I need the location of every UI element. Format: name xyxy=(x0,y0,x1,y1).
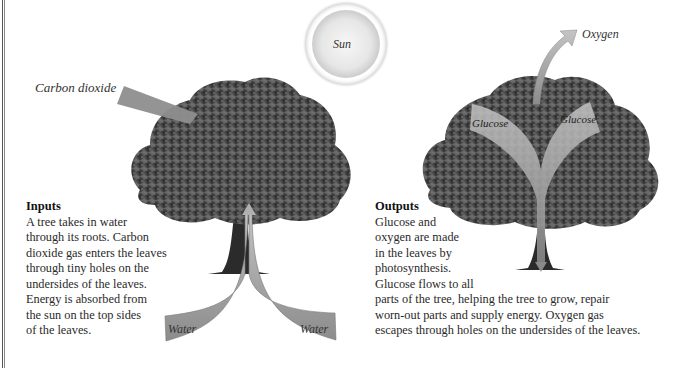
inputs-line: through tiny holes on the xyxy=(26,261,167,277)
inputs-line: of the leaves. xyxy=(26,323,167,339)
inputs-line: dioxide gas enters the leaves xyxy=(26,246,167,262)
outputs-line: parts of the tree, helping the tree to g… xyxy=(375,292,640,308)
outputs-line: Glucose flows to all xyxy=(375,277,640,293)
glucose-left-label: Glucose xyxy=(472,117,508,129)
water-arrows-icon xyxy=(165,203,336,341)
outputs-line: photosynthesis. xyxy=(375,261,640,277)
inputs-text-block: Inputs A tree takes in water through its… xyxy=(26,199,167,339)
glucose-right-label: Glucose xyxy=(560,113,596,125)
oxygen-label: Oxygen xyxy=(582,27,619,42)
outputs-line: escapes through holes on the undersides … xyxy=(375,323,640,339)
outputs-line: worn-out parts and supply energy. Oxygen… xyxy=(375,308,640,324)
outputs-heading: Outputs xyxy=(375,199,640,215)
water-left-label: Water xyxy=(168,322,196,337)
inputs-heading: Inputs xyxy=(26,199,167,215)
water-right-label: Water xyxy=(300,322,328,337)
outputs-line: oxygen are made xyxy=(375,230,640,246)
sun-label: Sun xyxy=(333,37,351,52)
inputs-line: undersides of the leaves. xyxy=(26,277,167,293)
outputs-text-block: Outputs Glucose and oxygen are made in t… xyxy=(375,199,640,339)
carbon-dioxide-label: Carbon dioxide xyxy=(35,80,116,96)
inputs-line: through its roots. Carbon xyxy=(26,230,167,246)
outputs-line: Glucose and xyxy=(375,215,640,231)
inputs-line: A tree takes in water xyxy=(26,215,167,231)
inputs-line: the sun on the top sides xyxy=(26,308,167,324)
outputs-line: in the leaves by xyxy=(375,246,640,262)
inputs-line: Energy is absorbed from xyxy=(26,292,167,308)
